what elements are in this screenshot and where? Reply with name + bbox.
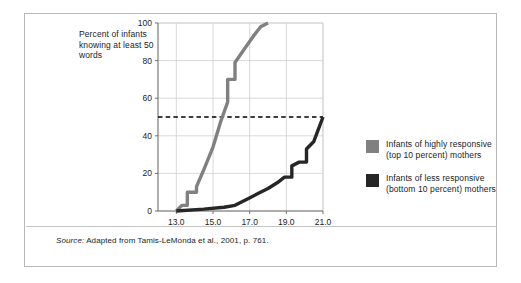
legend-swatch-less-responsive	[366, 174, 379, 187]
chart-y-tick-label: 40	[143, 131, 153, 141]
legend-label-less-responsive: Infants of less responsive (bottom 10 pe…	[386, 173, 501, 194]
chart-x-tick-label: 19.0	[278, 217, 295, 226]
source-citation: Adapted from Tamis-LeMonda et al., 2001,…	[84, 236, 268, 245]
chart-x-tick-label: 21.0	[315, 217, 332, 226]
legend-label-highly-responsive: Infants of highly responsive (top 10 per…	[386, 139, 501, 160]
source-label: Source:	[56, 236, 84, 245]
chart-x-tick-label: 17.0	[241, 217, 258, 226]
chart-y-tick-label: 80	[143, 56, 153, 66]
legend-item-less-responsive: Infants of less responsive (bottom 10 pe…	[366, 173, 501, 194]
legend-item-highly-responsive: Infants of highly responsive (top 10 per…	[366, 139, 501, 160]
figure-frame: Percent of infants knowing at least 50 w…	[24, 13, 497, 267]
chart-x-tick-label: 15.0	[205, 217, 222, 226]
chart-y-tick-label: 20	[143, 168, 153, 178]
source-divider	[26, 226, 497, 227]
legend-swatch-highly-responsive	[366, 140, 379, 153]
chart-legend: Infants of highly responsive (top 10 per…	[366, 139, 501, 207]
chart-y-tick-label: 60	[143, 93, 153, 103]
source-note: Source: Adapted from Tamis-LeMonda et al…	[56, 236, 269, 245]
chart-y-tick-label: 100	[138, 18, 152, 28]
chart-y-tick-label: 0	[147, 206, 152, 216]
chart-x-tick-label: 13.0	[168, 217, 185, 226]
